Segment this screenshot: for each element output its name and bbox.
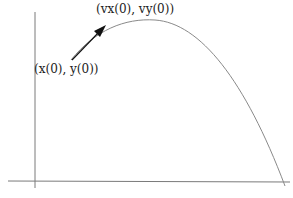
x-axis (8, 181, 290, 182)
initial-position-text: (x(0), y(0)) (34, 62, 99, 76)
initial-position-label: (x(0), y(0)) (34, 62, 99, 76)
trajectory-curve (71, 20, 285, 186)
trajectory-diagram (0, 0, 293, 198)
initial-velocity-text: (vx(0), vy(0)) (96, 2, 174, 16)
velocity-arrow-shaft (72, 31, 100, 60)
initial-velocity-label: (vx(0), vy(0)) (96, 2, 174, 16)
